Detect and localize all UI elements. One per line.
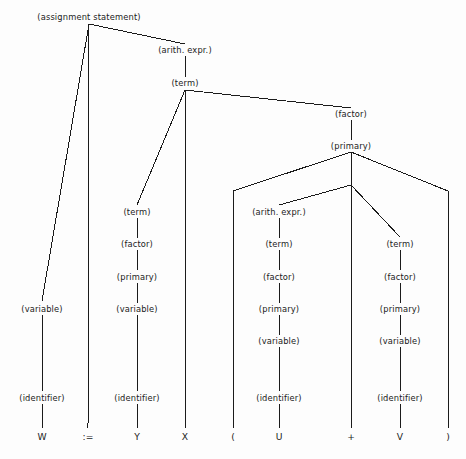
tree-node-label: (term)	[170, 79, 200, 87]
tree-node-label: (primary)	[257, 305, 300, 313]
tree-terminal-label: +	[346, 432, 357, 441]
tree-terminal-label: )	[445, 432, 452, 441]
tree-node-label: (variable)	[20, 305, 64, 313]
tree-node-label: (factor)	[334, 110, 369, 118]
parse-tree-diagram: (assignment statement)(arith. expr.)(ter…	[0, 0, 466, 459]
tree-node-label: (variable)	[115, 305, 159, 313]
tree-node-label: (factor)	[120, 240, 155, 248]
tree-node-label: (primary)	[115, 273, 158, 281]
tree-edge	[351, 152, 448, 191]
tree-node-label: (identifier)	[113, 394, 162, 402]
tree-edge	[233, 152, 351, 191]
tree-terminal-label: (	[230, 432, 237, 441]
tree-node-label: (identifier)	[255, 394, 304, 402]
tree-edges-layer	[0, 0, 466, 459]
tree-node-label: (assignment statement)	[36, 13, 142, 21]
tree-node-label: (arith. expr.)	[251, 208, 308, 216]
tree-edge	[279, 185, 351, 205]
tree-edge	[185, 90, 351, 108]
tree-node-label: (factor)	[262, 273, 297, 281]
tree-node-label: (primary)	[378, 305, 421, 313]
tree-edge	[137, 90, 185, 205]
tree-edge	[42, 24, 89, 301]
tree-edge	[89, 24, 185, 44]
tree-node-label: (variable)	[257, 337, 301, 345]
tree-node-label: (primary)	[329, 142, 372, 150]
tree-node-label: (term)	[264, 240, 294, 248]
tree-terminal-label: U	[274, 432, 284, 441]
tree-node-label: (variable)	[378, 337, 422, 345]
tree-node-label: (term)	[122, 208, 152, 216]
tree-node-label: (identifier)	[376, 394, 425, 402]
tree-terminal-label: X	[180, 432, 189, 441]
tree-node-label: (identifier)	[18, 394, 67, 402]
tree-node-label: (factor)	[383, 273, 418, 281]
tree-terminal-label: W	[36, 432, 48, 441]
tree-node-label: (arith. expr.)	[157, 46, 214, 54]
tree-edge	[351, 185, 400, 237]
tree-terminal-label: V	[395, 432, 404, 441]
tree-terminal-label: :=	[81, 432, 95, 441]
tree-terminal-label: Y	[133, 432, 142, 441]
tree-node-label: (term)	[385, 240, 415, 248]
tree-edge	[88, 24, 89, 428]
